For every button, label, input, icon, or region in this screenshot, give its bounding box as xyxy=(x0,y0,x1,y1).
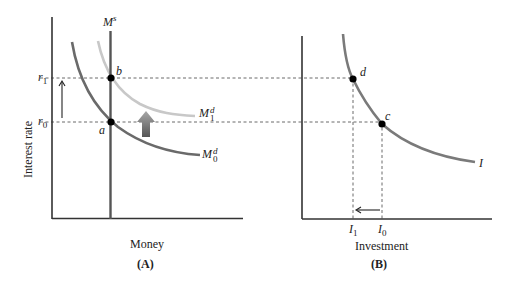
invest-new-label: I1 xyxy=(349,223,358,235)
investment-fall-arrow xyxy=(356,207,380,213)
money-supply-label: Ms xyxy=(103,16,117,28)
panel-b-axes xyxy=(302,36,492,219)
point-b-marker xyxy=(107,74,114,81)
point-c-label: c xyxy=(385,110,390,122)
point-d-label: d xyxy=(360,66,366,78)
diagram-canvas xyxy=(0,0,514,290)
money-demand-initial-label: Md0 xyxy=(202,147,218,163)
investment-curve xyxy=(343,34,475,162)
panel-b-caption: (B) xyxy=(371,258,387,270)
point-a-marker xyxy=(107,118,114,125)
invest-initial-label: I0 xyxy=(378,223,387,235)
rate-high-label: r1 xyxy=(38,71,47,83)
panel-a-caption: (A) xyxy=(137,258,154,270)
point-d-marker xyxy=(349,75,356,82)
point-a-label: a xyxy=(99,124,105,136)
x-axis-label-investment: Investment xyxy=(355,240,408,252)
money-demand-new-label: Md1 xyxy=(199,106,215,122)
rate-rise-arrow xyxy=(59,81,65,118)
rate-low-label: r0 xyxy=(38,115,47,127)
investment-curve-label: I xyxy=(479,157,483,169)
demand-shift-arrow xyxy=(137,111,155,137)
money-demand-initial-curve xyxy=(72,42,200,155)
y-axis-label-interest-rate: Interest rate xyxy=(22,121,34,178)
point-b-label: b xyxy=(116,65,122,77)
x-axis-label-money: Money xyxy=(130,238,164,250)
